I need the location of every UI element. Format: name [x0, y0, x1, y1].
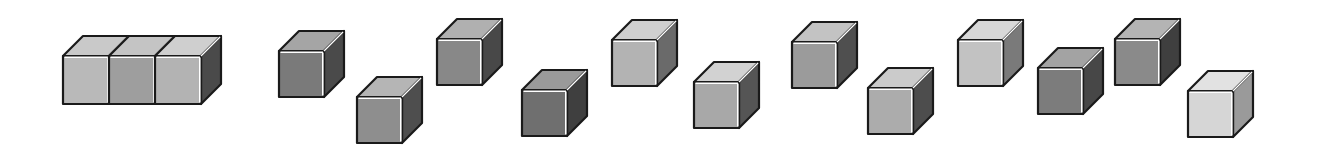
cube-front-face: [63, 56, 109, 104]
cube-front-face: [437, 39, 482, 85]
cube-front-face: [155, 56, 201, 104]
cube-front-face: [279, 51, 324, 97]
cube-front-face: [694, 82, 739, 128]
cube-diagram-canvas: [0, 0, 1319, 145]
cube-front-face: [958, 40, 1003, 86]
joined-cube-3: [155, 36, 221, 104]
cube-9: [958, 20, 1023, 86]
cube-4: [522, 70, 587, 136]
cube-front-face: [522, 90, 567, 136]
cube-8: [868, 68, 933, 134]
cube-2: [357, 77, 422, 143]
row-of-three-cubes: [63, 36, 221, 104]
cube-10: [1038, 48, 1103, 114]
cube-figure: [0, 0, 1319, 145]
cube-5: [612, 20, 677, 86]
cube-11: [1115, 19, 1180, 85]
cube-front-face: [1188, 91, 1233, 137]
cube-6: [694, 62, 759, 128]
cube-front-face: [109, 56, 155, 104]
cube-front-face: [792, 42, 837, 88]
cube-front-face: [1038, 68, 1083, 114]
cube-front-face: [1115, 39, 1160, 85]
cube-3: [437, 19, 502, 85]
cube-front-face: [612, 40, 657, 86]
cube-1: [279, 31, 344, 97]
cube-12: [1188, 71, 1253, 137]
cube-front-face: [868, 88, 913, 134]
scattered-cubes: [279, 19, 1253, 143]
cube-front-face: [357, 97, 402, 143]
cube-7: [792, 22, 857, 88]
